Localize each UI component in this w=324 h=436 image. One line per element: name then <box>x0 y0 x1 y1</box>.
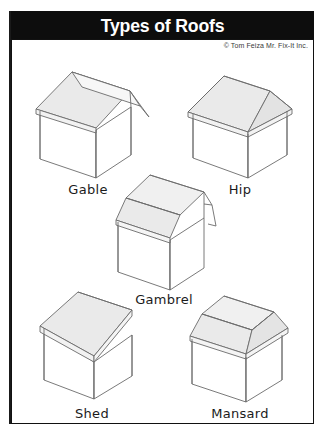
figure-shed: Shed <box>22 280 162 405</box>
figure-mansard: Mansard <box>170 284 310 406</box>
gambrel-roof-drawing <box>94 160 234 295</box>
label-mansard: Mansard <box>170 406 310 421</box>
roof-types-poster: Types of Roofs © Tom Feiza Mr. Fix-It In… <box>0 0 324 436</box>
figure-gambrel: Gambrel <box>94 160 234 295</box>
label-shed: Shed <box>22 406 162 421</box>
mansard-roof-drawing <box>170 284 310 406</box>
copyright-credit: © Tom Feiza Mr. Fix-It Inc. <box>224 42 308 49</box>
diagram-frame: © Tom Feiza Mr. Fix-It Inc. <box>11 39 314 424</box>
shed-roof-drawing <box>22 280 162 405</box>
page-title: Types of Roofs <box>101 16 225 35</box>
title-bar: Types of Roofs <box>11 11 314 39</box>
